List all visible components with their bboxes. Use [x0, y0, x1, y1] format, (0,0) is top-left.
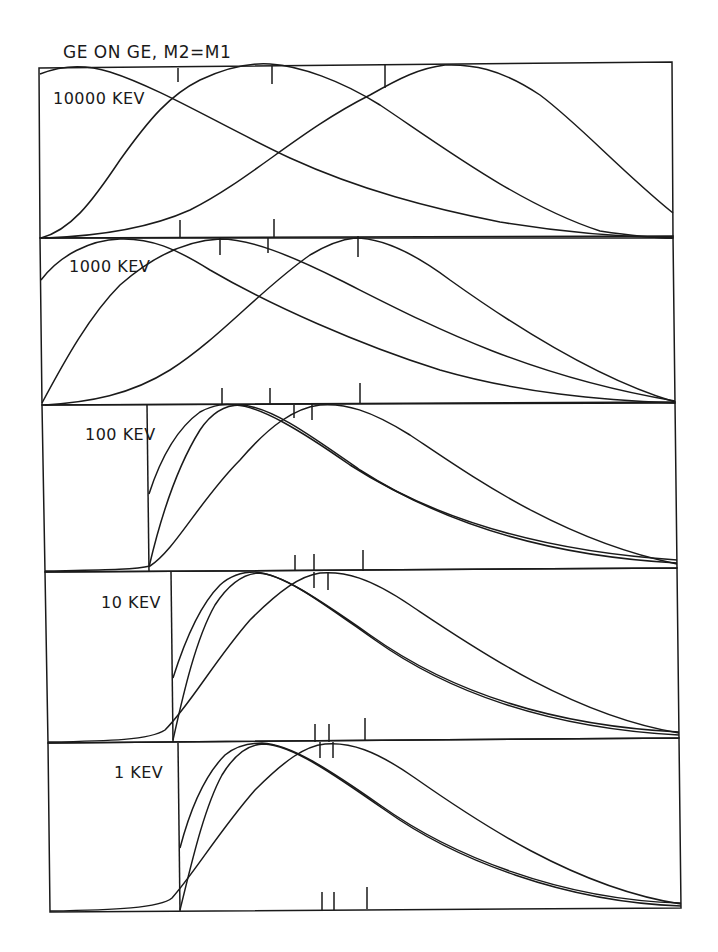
- stacked-distribution-chart: GE ON GE, M2=M1 10000 KEV 1000 KEV 100 K…: [0, 0, 718, 952]
- panel-10-kev: 10 KEV: [45, 568, 679, 743]
- series-curve-1: [180, 743, 681, 903]
- panel-label: 10000 KEV: [53, 89, 145, 108]
- panel-1000-kev: 1000 KEV: [40, 236, 675, 405]
- panel-label: 1 KEV: [114, 763, 163, 782]
- series-curve-2: [149, 405, 677, 567]
- threshold-line: [178, 743, 180, 911]
- chart-title: GE ON GE, M2=M1: [63, 42, 231, 62]
- panel-1-kev: 1 KEV: [48, 738, 681, 912]
- panel-label: 10 KEV: [101, 593, 161, 612]
- series-curve-1: [149, 405, 677, 560]
- threshold-line: [171, 572, 173, 742]
- panel-label: 1000 KEV: [69, 257, 150, 276]
- series-curve-1: [173, 572, 679, 732]
- series-curve-2: [173, 573, 679, 740]
- panel-100-kev: 100 KEV: [42, 402, 677, 572]
- panel-10000-kev: 10000 KEV: [39, 62, 673, 238]
- panel-label: 100 KEV: [85, 425, 156, 444]
